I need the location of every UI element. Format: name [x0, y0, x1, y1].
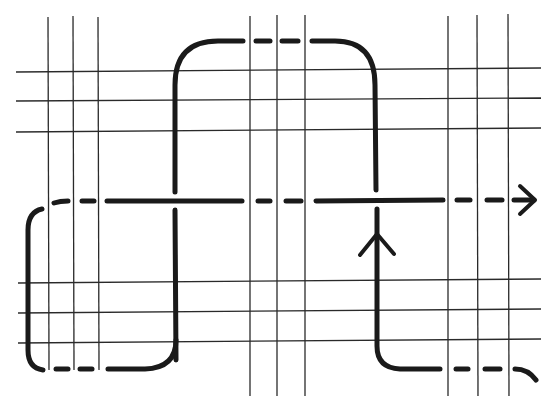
grid-vertical-left [48, 16, 99, 370]
grid-vertical-middle [250, 15, 305, 396]
strand-bottom-right [377, 209, 536, 380]
grid-horizontal-bottom [18, 279, 541, 343]
grid-horizontal-top [16, 68, 541, 132]
diagram-canvas [0, 0, 541, 403]
strand-horizontal [54, 200, 534, 203]
strand-bottom-left-loop [28, 209, 176, 370]
knot-diagram [0, 0, 541, 403]
